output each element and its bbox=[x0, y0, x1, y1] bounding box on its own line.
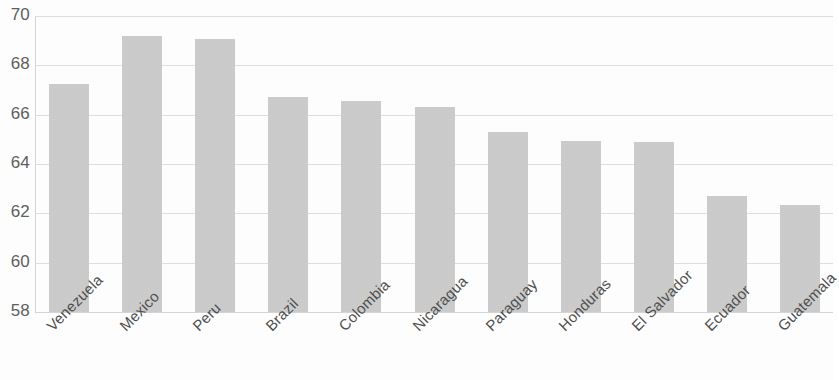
y-tick-label-64: 64 bbox=[2, 153, 30, 173]
y-tick-label-70: 70 bbox=[2, 5, 30, 25]
bar-brazil bbox=[268, 97, 308, 312]
bar-mexico bbox=[122, 36, 162, 312]
bar-peru bbox=[195, 39, 235, 312]
bar-venezuela bbox=[49, 84, 89, 312]
y-tick-label-68: 68 bbox=[2, 54, 30, 74]
x-axis-category-labels: VenezuelaMexicoPeruBrazilColombiaNicarag… bbox=[0, 312, 833, 380]
y-tick-label-66: 66 bbox=[2, 104, 30, 124]
y-tick-label-60: 60 bbox=[2, 252, 30, 272]
plot-area bbox=[35, 16, 833, 312]
gridline-70 bbox=[35, 16, 833, 17]
y-tick-label-62: 62 bbox=[2, 202, 30, 222]
